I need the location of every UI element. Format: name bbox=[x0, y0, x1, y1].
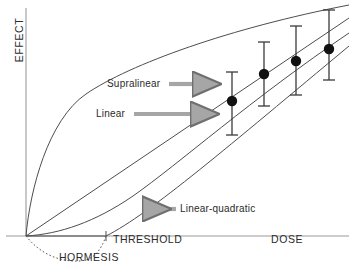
threshold-label: THRESHOLD bbox=[113, 233, 182, 245]
curve-supralinear bbox=[26, 5, 349, 236]
x-axis-label: DOSE bbox=[271, 233, 303, 245]
annotation-arrows bbox=[134, 84, 194, 209]
axis-lines bbox=[6, 8, 349, 236]
data-markers bbox=[227, 44, 334, 106]
linear-quadratic-label: Linear-quadratic bbox=[180, 203, 255, 214]
error-bars bbox=[226, 10, 335, 135]
chart-figure: EFFECT DOSE THRESHOLD HORMESIS Supraline… bbox=[0, 0, 349, 271]
y-axis-label: EFFECT bbox=[13, 10, 25, 70]
data-point bbox=[227, 96, 237, 106]
hormesis-label: HORMESIS bbox=[59, 251, 119, 263]
data-point bbox=[324, 44, 334, 54]
data-point bbox=[291, 56, 301, 66]
linear-label: Linear bbox=[96, 108, 125, 119]
supralinear-label: Supralinear bbox=[107, 78, 160, 89]
data-point bbox=[259, 69, 269, 79]
dose-response-plot bbox=[0, 0, 349, 271]
curve-group bbox=[26, 5, 349, 261]
